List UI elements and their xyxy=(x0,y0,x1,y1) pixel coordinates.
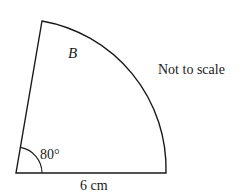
angle-arc-marker xyxy=(21,147,43,173)
radius-label: 6 cm xyxy=(80,178,108,193)
sector-diagram: B 80° 6 cm Not to scale xyxy=(0,0,244,196)
not-to-scale-note: Not to scale xyxy=(158,62,225,77)
angle-label: 80° xyxy=(40,147,60,162)
region-label: B xyxy=(68,45,77,61)
sector-outline xyxy=(16,21,166,173)
